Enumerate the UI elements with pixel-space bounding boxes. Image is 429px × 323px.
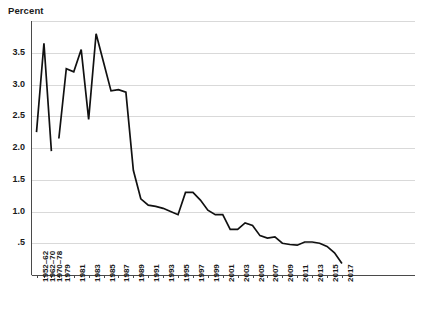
x-tick-label: 1993 (167, 264, 176, 282)
x-tick-label: 2017 (346, 264, 355, 282)
x-tick-label: 1979 (63, 264, 72, 282)
percent-line-chart: Percent 3.53.02.52.01.51.0.5 1952–621962… (0, 0, 429, 323)
x-tick-label: 2003 (242, 264, 251, 282)
x-tick-label: 1991 (152, 264, 161, 282)
x-tick-label: 2007 (271, 264, 280, 282)
x-tick-label: 1999 (212, 264, 221, 282)
x-tick-label: 2001 (227, 264, 236, 282)
x-tick-label: 2015 (331, 264, 340, 282)
x-tick-label: 1995 (182, 264, 191, 282)
x-axis-tick-labels: 1952–621962–701970–781979198119831985198… (0, 0, 429, 323)
x-tick-label: 1983 (93, 264, 102, 282)
x-tick-label: 1987 (122, 264, 131, 282)
x-tick-label: 1989 (137, 264, 146, 282)
x-tick-label: 1985 (108, 264, 117, 282)
x-tick-label: 1997 (197, 264, 206, 282)
x-tick-label: 2013 (316, 264, 325, 282)
x-tick-label: 2009 (286, 264, 295, 282)
x-tick-label: 2011 (301, 265, 310, 282)
x-tick-label: 2005 (257, 264, 266, 282)
x-tick-label: 1981 (78, 264, 87, 282)
